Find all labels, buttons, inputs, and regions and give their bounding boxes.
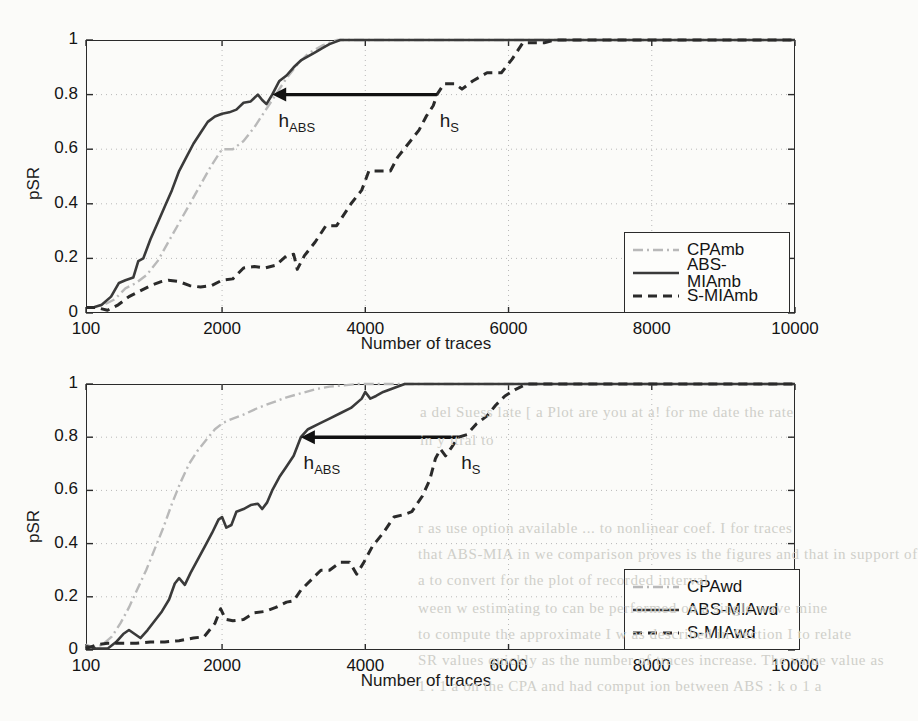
legend-item-s-miamb[interactable]: S-MIAmb bbox=[632, 284, 780, 307]
legend-label: ABS-MIAmb bbox=[687, 256, 780, 290]
y-tick-label: 1 bbox=[24, 373, 78, 393]
h-s-label: hS bbox=[461, 452, 480, 477]
y-tick-label: 0.2 bbox=[24, 247, 78, 267]
legend-label: ABS-MIAwd bbox=[687, 601, 778, 618]
y-tick-label: 0.6 bbox=[24, 138, 78, 158]
y-tick-label: 0.8 bbox=[24, 426, 78, 446]
x-axis-title-bottom: Number of traces bbox=[0, 671, 852, 691]
plot-canvas-bottom bbox=[0, 361, 852, 721]
y-axis-title-top: pSR bbox=[24, 167, 44, 200]
legend-item-abs-miamb[interactable]: ABS-MIAmb bbox=[632, 261, 780, 284]
y-axis-title-bottom: pSR bbox=[24, 510, 44, 543]
y-tick-label: 0 bbox=[24, 302, 78, 322]
y-tick-label: 0.2 bbox=[24, 586, 78, 606]
y-tick-label: 1 bbox=[24, 29, 78, 49]
legend-label: CPAwd bbox=[687, 578, 742, 595]
legend-key-dashed-icon bbox=[632, 626, 680, 640]
legend-key-dashed-icon bbox=[632, 289, 680, 303]
legend-bottom[interactable]: CPAwdABS-MIAwdS-MIAwd bbox=[624, 569, 800, 650]
x-axis-title-top: Number of traces bbox=[0, 334, 852, 354]
gain-arrow bbox=[301, 430, 459, 444]
y-tick-label: 0.6 bbox=[24, 479, 78, 499]
y-tick-label: 0.8 bbox=[24, 84, 78, 104]
legend-key-solid-icon bbox=[632, 266, 680, 280]
legend-key-dashdot-icon bbox=[632, 243, 680, 257]
legend-key-dashdot-icon bbox=[632, 580, 680, 594]
h-abs-label: hABS bbox=[279, 110, 316, 135]
y-tick-label: 0 bbox=[24, 639, 78, 659]
figure-bottom: hABShS10020004000600080001000000.20.40.6… bbox=[0, 361, 852, 721]
legend-item-abs-miawd[interactable]: ABS-MIAwd bbox=[632, 598, 790, 621]
h-s-label: hS bbox=[440, 110, 459, 135]
figure-top: hABShS10020004000600080001000000.20.40.6… bbox=[0, 0, 852, 360]
h-abs-label: hABS bbox=[304, 452, 341, 477]
legend-top[interactable]: CPAmbABS-MIAmbS-MIAmb bbox=[624, 232, 790, 313]
gain-arrow bbox=[272, 88, 437, 102]
legend-item-cpawd[interactable]: CPAwd bbox=[632, 575, 790, 598]
legend-label: S-MIAwd bbox=[687, 624, 756, 641]
legend-item-s-miawd[interactable]: S-MIAwd bbox=[632, 621, 790, 644]
legend-key-solid-icon bbox=[632, 603, 680, 617]
legend-label: S-MIAmb bbox=[687, 287, 758, 304]
